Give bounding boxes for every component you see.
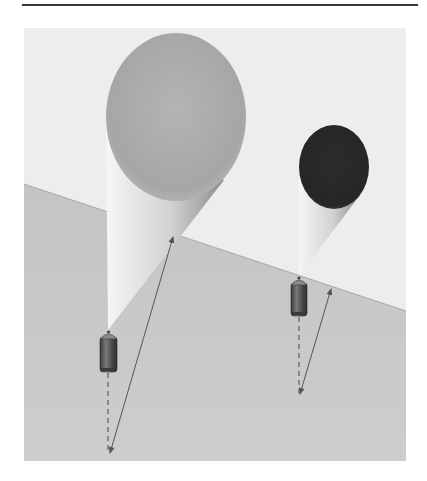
- large-balloon-shape: [106, 33, 246, 201]
- canister-icon: [100, 330, 117, 372]
- canister-icon: [291, 276, 307, 316]
- balloon-figure: [0, 0, 427, 481]
- small-balloon-shape: [299, 125, 369, 209]
